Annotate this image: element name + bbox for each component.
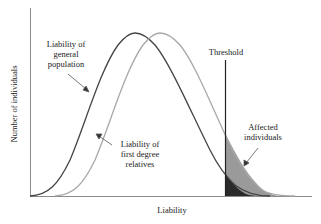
x-axis-label: Liability <box>157 205 187 215</box>
threshold-label: Threshold <box>209 47 244 57</box>
affected-arrow <box>244 148 258 166</box>
svg-text:Liability of: Liability of <box>47 39 86 49</box>
svg-text:population: population <box>48 59 85 69</box>
relatives-curve <box>55 33 295 196</box>
svg-text:general: general <box>53 49 79 59</box>
svg-text:first degree: first degree <box>121 149 160 159</box>
relatives-label: Liability of first degree relatives <box>121 139 160 169</box>
general-population-arrow <box>68 74 89 92</box>
general-population-label: Liability of general population <box>47 39 86 69</box>
svg-text:individuals: individuals <box>244 132 282 142</box>
svg-text:Liability of: Liability of <box>121 139 160 149</box>
y-axis-label: Number of individuals <box>9 66 19 143</box>
svg-text:Affected: Affected <box>248 122 278 132</box>
svg-text:relatives: relatives <box>126 159 155 169</box>
liability-threshold-diagram: Number of individuals Liability Threshol… <box>0 0 321 224</box>
affected-individuals-label: Affected individuals <box>244 122 282 142</box>
